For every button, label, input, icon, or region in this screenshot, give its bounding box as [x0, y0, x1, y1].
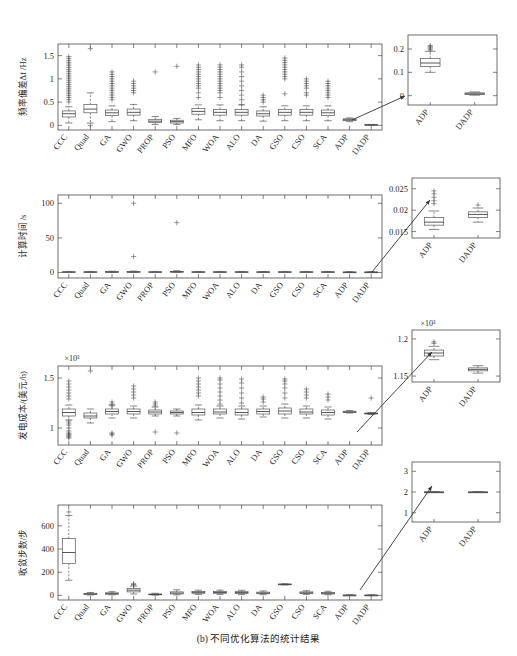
x-tick-label-DADP: DADP: [350, 447, 372, 472]
inset-x-tick-label-DADP: DADP: [456, 384, 478, 409]
y-tick-label: 0: [50, 120, 54, 130]
x-tick-label-CSO: CSO: [289, 447, 307, 466]
y-tick-label: 1.2: [397, 334, 408, 344]
y-tick-label: 0: [50, 267, 54, 277]
x-tick-label-GWO: GWO: [114, 602, 134, 624]
x-tick-label-PROP: PROP: [135, 447, 156, 470]
x-tick-label-ADP: ADP: [332, 602, 351, 622]
y-tick-label: 1.5: [43, 373, 54, 383]
x-tick-label-DA: DA: [248, 446, 264, 463]
y-tick-label: 2: [404, 487, 408, 497]
inset-box-panel-frequency-deviation-ADP-box: [420, 58, 440, 66]
inset-exponent-panel-generation-cost: ×10³: [421, 319, 437, 328]
x-tick-label-GA: GA: [97, 279, 113, 296]
figure-caption-wrap: (b) 不同优化算法的统计结果: [0, 628, 517, 646]
y-tick-label: 1.5: [43, 51, 54, 61]
x-tick-label-Quad: Quad: [72, 601, 92, 622]
x-tick-label-SCA: SCA: [311, 446, 330, 466]
x-tick-label-SCA: SCA: [311, 601, 330, 621]
x-tick-label-CCC: CCC: [51, 602, 70, 622]
x-tick-label-ADP: ADP: [332, 132, 351, 152]
x-tick-label-WOA: WOA: [200, 601, 221, 624]
y-axis-exponent-panel-generation-cost: ×10³: [65, 354, 81, 363]
x-tick-label-ALO: ALO: [224, 447, 243, 467]
x-tick-label-CCC: CCC: [51, 280, 70, 300]
x-tick-label-DA: DA: [248, 601, 264, 618]
x-tick-label-ALO: ALO: [224, 602, 243, 622]
box-panel-generation-cost-WOA-box: [214, 409, 227, 414]
y-tick-label: 1: [50, 423, 54, 433]
x-tick-label-GSO: GSO: [267, 447, 285, 467]
x-tick-label-MFO: MFO: [180, 132, 199, 153]
x-tick-label-CSO: CSO: [289, 132, 307, 151]
x-tick-label-GSO: GSO: [267, 280, 285, 300]
inset-x-tick-label-DADP: DADP: [453, 107, 475, 132]
y-tick-label: 1: [50, 74, 54, 84]
figure-caption: (b) 不同优化算法的统计结果: [197, 634, 320, 644]
axes-frame: [412, 178, 500, 238]
x-tick-label-CCC: CCC: [51, 132, 70, 152]
x-tick-label-GSO: GSO: [267, 602, 285, 622]
inset-x-tick-label-ADP: ADP: [416, 384, 435, 404]
statistics-boxplot-figure: 00.511.5CCCQuadGAGWOPROPPSOMFOWOAALODAGS…: [0, 0, 517, 656]
x-tick-label-PROP: PROP: [135, 280, 156, 303]
x-tick-label-SCA: SCA: [311, 279, 330, 299]
x-tick-label-GSO: GSO: [267, 132, 285, 152]
y-axis-label-panel-frequency-deviation: 频率偏差Δf /Hz: [17, 57, 28, 116]
x-tick-label-DA: DA: [248, 279, 264, 296]
y-axis-label-panel-computation-time: 计算时间 /s: [17, 214, 28, 259]
x-tick-label-SCA: SCA: [311, 131, 330, 151]
inset-connector-arrowhead: [428, 486, 432, 491]
y-axis-label-panel-generation-cost: 发电成本/(美元/h): [17, 371, 28, 440]
x-tick-label-GWO: GWO: [114, 447, 134, 469]
x-tick-label-GA: GA: [97, 131, 113, 148]
box-panel-generation-cost-CSO-box: [300, 409, 313, 414]
x-tick-label-PSO: PSO: [160, 280, 177, 298]
y-tick-label: 0.02: [393, 205, 408, 215]
x-tick-label-MFO: MFO: [180, 602, 199, 623]
y-tick-label: 0: [50, 590, 54, 600]
y-tick-label: 0.025: [389, 184, 408, 194]
box-panel-generation-cost-MFO-box: [192, 409, 205, 415]
x-tick-label-PSO: PSO: [160, 602, 177, 620]
x-tick-label-DADP: DADP: [350, 132, 372, 157]
x-tick-label-PSO: PSO: [160, 132, 177, 150]
y-tick-label: 0.2: [393, 44, 404, 54]
inset-x-tick-label-ADP: ADP: [416, 524, 435, 544]
y-tick-label: 1: [404, 508, 408, 518]
axes-frame: [58, 505, 382, 600]
x-tick-label-PSO: PSO: [160, 447, 177, 465]
figure-container: 00.511.5CCCQuadGAGWOPROPPSOMFOWOAALODAGS…: [0, 0, 517, 656]
axes-frame: [58, 195, 382, 278]
x-tick-label-CSO: CSO: [289, 280, 307, 299]
x-tick-label-GA: GA: [97, 446, 113, 463]
x-tick-label-PROP: PROP: [135, 132, 156, 155]
x-tick-label-ALO: ALO: [224, 280, 243, 300]
x-tick-label-WOA: WOA: [200, 446, 221, 469]
y-tick-label: 600: [41, 521, 54, 531]
y-tick-label: 50: [46, 233, 55, 243]
y-tick-label: 0.5: [43, 97, 54, 107]
x-tick-label-Quad: Quad: [72, 131, 92, 152]
y-tick-label: 3: [404, 466, 408, 476]
y-tick-label: 0.1: [393, 67, 404, 77]
x-tick-label-CSO: CSO: [289, 602, 307, 621]
x-tick-label-DADP: DADP: [350, 280, 372, 305]
box-panel-frequency-deviation-Quad-box: [84, 104, 97, 112]
y-tick-label: 200: [41, 567, 54, 577]
x-tick-label-DADP: DADP: [350, 602, 372, 627]
inset-box-panel-computation-time-ADP-box: [424, 217, 443, 225]
x-tick-label-ALO: ALO: [224, 132, 243, 152]
box-panel-generation-cost-Quad-box: [84, 413, 97, 418]
box-panel-convergence-steps-CCC-box: [62, 539, 75, 564]
box-panel-generation-cost-ALO-box: [235, 409, 248, 415]
x-tick-label-WOA: WOA: [200, 279, 221, 302]
x-tick-label-GA: GA: [97, 601, 113, 618]
inset-x-tick-label-DADP: DADP: [456, 240, 478, 265]
x-tick-label-GWO: GWO: [114, 132, 134, 154]
inset-x-tick-label-DADP: DADP: [456, 524, 478, 549]
x-tick-label-GWO: GWO: [114, 280, 134, 302]
inset-x-tick-label-ADP: ADP: [416, 240, 435, 260]
inset-connector-line: [352, 96, 405, 120]
x-tick-label-Quad: Quad: [72, 446, 92, 467]
